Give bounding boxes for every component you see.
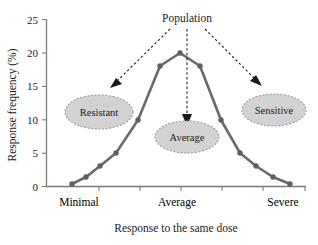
x-tick-label-severe: Severe [267,196,298,208]
population-annotation-label: Population [162,12,212,25]
arrow-population-to-resistant [110,29,170,88]
y-tick-label-10: 10 [27,114,39,126]
arrow-population-to-average [182,29,192,126]
response-frequency-line-chart: 25 20 15 10 5 0 Minimal Average Severe R… [0,0,318,245]
y-tick-label-5: 5 [33,147,39,159]
callout-resistant: Resistant [65,95,133,129]
y-tick-label-15: 15 [27,80,39,92]
callout-sensitive: Sensitive [242,94,306,126]
callout-resistant-label: Resistant [80,107,119,118]
callout-average: Average [155,121,219,153]
y-axis-title: Response frequency (%) [6,48,19,161]
y-tick-label-0: 0 [33,181,39,193]
arrow-population-to-sensitive [205,29,262,86]
x-tickmarks [99,187,305,192]
chart-figure: 25 20 15 10 5 0 Minimal Average Severe R… [0,0,318,245]
callout-sensitive-label: Sensitive [255,105,294,116]
x-axis-title: Response to the same dose [114,222,237,235]
y-tickmarks [42,20,47,187]
x-tick-label-average: Average [158,196,196,209]
y-tick-label-25: 25 [27,14,39,26]
callout-average-label: Average [170,132,205,143]
y-tick-label-20: 20 [27,47,39,59]
x-tick-label-minimal: Minimal [59,196,99,208]
